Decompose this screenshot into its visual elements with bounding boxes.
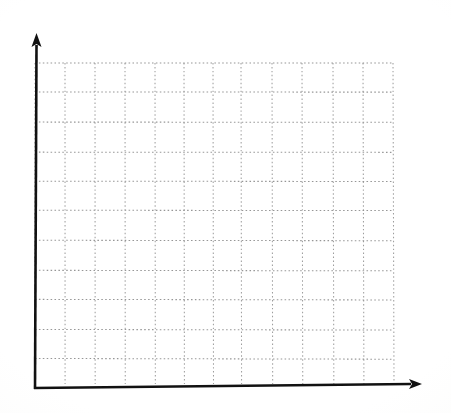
gridline-horizontal bbox=[35, 270, 393, 271]
vertical-gridlines bbox=[35, 63, 394, 384]
y-axis bbox=[32, 33, 42, 389]
gridline-vertical bbox=[272, 63, 273, 384]
gridline-vertical bbox=[302, 63, 303, 384]
gridline-vertical bbox=[333, 63, 334, 384]
gridline-horizontal bbox=[35, 299, 393, 300]
plot-canvas bbox=[0, 0, 451, 413]
gridline-horizontal bbox=[35, 358, 393, 359]
gridline-horizontal bbox=[35, 329, 393, 330]
x-axis bbox=[34, 379, 422, 389]
gridline-vertical bbox=[241, 63, 242, 384]
graph-figure bbox=[0, 0, 451, 413]
gridline-vertical bbox=[393, 63, 394, 384]
x-axis-line bbox=[34, 384, 411, 388]
gridline-vertical bbox=[213, 63, 214, 384]
gridline-vertical bbox=[363, 63, 364, 384]
y-axis-line bbox=[35, 45, 37, 389]
horizontal-gridlines bbox=[35, 63, 393, 359]
y-axis-arrowhead bbox=[32, 33, 42, 47]
